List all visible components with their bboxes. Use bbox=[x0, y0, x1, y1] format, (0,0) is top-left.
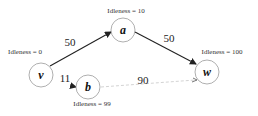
graph-diagram: 50 50 11 90 v Idleness = 0 a Idleness = … bbox=[0, 0, 258, 116]
edge-v-b bbox=[72, 86, 76, 87]
edge-label-a-w: 50 bbox=[164, 32, 176, 44]
edge-label-v-a: 50 bbox=[65, 36, 77, 48]
edge-label-b-w: 90 bbox=[138, 74, 150, 86]
node-w-idleness: Idleness = 100 bbox=[202, 48, 243, 56]
node-a: a Idleness = 10 bbox=[107, 7, 145, 42]
node-b-idleness: Idleness = 99 bbox=[73, 100, 111, 108]
node-w: w Idleness = 100 bbox=[195, 48, 243, 84]
edge-label-v-b: 11 bbox=[60, 72, 71, 84]
node-a-idleness: Idleness = 10 bbox=[107, 7, 145, 15]
node-a-label: a bbox=[120, 23, 126, 37]
node-w-label: w bbox=[203, 65, 212, 79]
node-b: b Idleness = 99 bbox=[73, 75, 111, 108]
node-v-label: v bbox=[38, 68, 44, 82]
node-b-label: b bbox=[85, 80, 91, 94]
edge-v-a bbox=[50, 32, 111, 66]
node-v-idleness: Idleness = 0 bbox=[8, 48, 42, 56]
node-v: v Idleness = 0 bbox=[8, 48, 53, 87]
